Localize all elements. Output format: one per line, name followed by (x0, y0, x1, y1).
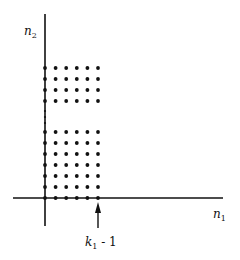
x-axis-label: n1 (213, 207, 226, 223)
y-axis-label-var: n (24, 24, 32, 38)
x-axis-label-var: n (213, 207, 221, 221)
y-axis-label-sub: 2 (32, 31, 37, 40)
lattice-diagram: n2 n1 k1 - 1 (0, 0, 240, 260)
x-axis-label-sub: 1 (221, 214, 226, 223)
up-arrow-icon (95, 202, 101, 228)
marker-label-rest: - 1 (97, 235, 116, 249)
y-axis-label: n2 (24, 24, 37, 40)
sample-dots (43, 66, 100, 200)
marker-label: k1 - 1 (85, 235, 117, 251)
